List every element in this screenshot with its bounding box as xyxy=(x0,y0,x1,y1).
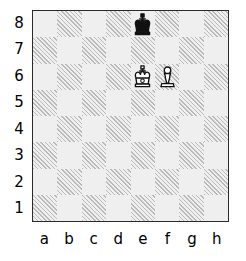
square-c5[interactable] xyxy=(82,90,106,116)
square-h1[interactable] xyxy=(204,195,228,221)
square-e5[interactable] xyxy=(131,90,155,116)
square-h5[interactable] xyxy=(204,90,228,116)
square-a7[interactable] xyxy=(33,37,57,63)
square-b4[interactable] xyxy=(57,116,81,142)
square-e1[interactable] xyxy=(131,195,155,221)
rank-label-6: 6 xyxy=(8,63,30,90)
square-d3[interactable] xyxy=(106,142,130,168)
rank-label-4: 4 xyxy=(8,116,30,143)
file-label-b: b xyxy=(57,226,82,252)
square-d8[interactable] xyxy=(106,11,130,37)
square-b5[interactable] xyxy=(57,90,81,116)
square-g1[interactable] xyxy=(179,195,203,221)
square-f6[interactable] xyxy=(155,64,179,90)
square-c4[interactable] xyxy=(82,116,106,142)
square-e7[interactable] xyxy=(131,37,155,63)
square-f8[interactable] xyxy=(155,11,179,37)
black-king-icon[interactable] xyxy=(131,11,155,37)
square-d5[interactable] xyxy=(106,90,130,116)
file-label-c: c xyxy=(81,226,106,252)
square-f1[interactable] xyxy=(155,195,179,221)
file-label-h: h xyxy=(204,226,229,252)
rank-label-1: 1 xyxy=(8,196,30,223)
square-h4[interactable] xyxy=(204,116,228,142)
square-a4[interactable] xyxy=(33,116,57,142)
square-g6[interactable] xyxy=(179,64,203,90)
square-g3[interactable] xyxy=(179,142,203,168)
square-g4[interactable] xyxy=(179,116,203,142)
square-e6[interactable] xyxy=(131,64,155,90)
square-f4[interactable] xyxy=(155,116,179,142)
square-b8[interactable] xyxy=(57,11,81,37)
rank-label-2: 2 xyxy=(8,169,30,196)
chess-diagram: 87654321 abcdefgh xyxy=(0,0,246,261)
square-h3[interactable] xyxy=(204,142,228,168)
square-h6[interactable] xyxy=(204,64,228,90)
square-c8[interactable] xyxy=(82,11,106,37)
white-king-icon[interactable] xyxy=(131,64,155,90)
square-b1[interactable] xyxy=(57,195,81,221)
rank-label-5: 5 xyxy=(8,90,30,117)
square-a1[interactable] xyxy=(33,195,57,221)
square-h7[interactable] xyxy=(204,37,228,63)
square-h2[interactable] xyxy=(204,169,228,195)
square-f2[interactable] xyxy=(155,169,179,195)
square-e4[interactable] xyxy=(131,116,155,142)
square-b2[interactable] xyxy=(57,169,81,195)
square-b3[interactable] xyxy=(57,142,81,168)
file-label-g: g xyxy=(180,226,205,252)
square-d4[interactable] xyxy=(106,116,130,142)
square-f5[interactable] xyxy=(155,90,179,116)
chess-board[interactable] xyxy=(32,10,229,222)
square-c7[interactable] xyxy=(82,37,106,63)
square-e3[interactable] xyxy=(131,142,155,168)
square-c1[interactable] xyxy=(82,195,106,221)
square-e2[interactable] xyxy=(131,169,155,195)
square-g2[interactable] xyxy=(179,169,203,195)
square-a6[interactable] xyxy=(33,64,57,90)
rank-label-3: 3 xyxy=(8,143,30,170)
square-f3[interactable] xyxy=(155,142,179,168)
rank-labels: 87654321 xyxy=(8,10,30,222)
rank-label-7: 7 xyxy=(8,37,30,64)
square-c6[interactable] xyxy=(82,64,106,90)
file-label-d: d xyxy=(106,226,131,252)
square-e8[interactable] xyxy=(131,11,155,37)
square-c2[interactable] xyxy=(82,169,106,195)
square-b7[interactable] xyxy=(57,37,81,63)
square-h8[interactable] xyxy=(204,11,228,37)
file-labels: abcdefgh xyxy=(32,226,229,252)
square-a3[interactable] xyxy=(33,142,57,168)
file-label-e: e xyxy=(131,226,156,252)
square-d7[interactable] xyxy=(106,37,130,63)
file-label-f: f xyxy=(155,226,180,252)
square-a5[interactable] xyxy=(33,90,57,116)
rank-label-8: 8 xyxy=(8,10,30,37)
square-b6[interactable] xyxy=(57,64,81,90)
square-g7[interactable] xyxy=(179,37,203,63)
square-d1[interactable] xyxy=(106,195,130,221)
square-g8[interactable] xyxy=(179,11,203,37)
square-d6[interactable] xyxy=(106,64,130,90)
square-d2[interactable] xyxy=(106,169,130,195)
square-f7[interactable] xyxy=(155,37,179,63)
white-pawn-icon[interactable] xyxy=(155,64,179,90)
square-a8[interactable] xyxy=(33,11,57,37)
square-g5[interactable] xyxy=(179,90,203,116)
square-a2[interactable] xyxy=(33,169,57,195)
file-label-a: a xyxy=(32,226,57,252)
square-c3[interactable] xyxy=(82,142,106,168)
